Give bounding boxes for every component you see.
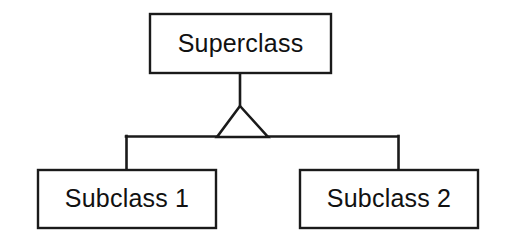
subclass-2-node[interactable]: Subclass 2 — [300, 170, 478, 228]
superclass-node[interactable]: Superclass — [150, 14, 331, 73]
uml-class-diagram: Superclass Subclass 1 Subclass 2 — [0, 0, 505, 244]
generalization-arrowhead-icon — [217, 106, 268, 137]
subclass-2-label: Subclass 2 — [327, 184, 451, 212]
superclass-label: Superclass — [178, 29, 304, 57]
uml-diagram-canvas: Superclass Subclass 1 Subclass 2 — [0, 0, 505, 244]
subclass-1-label: Subclass 1 — [65, 184, 189, 212]
subclass-1-node[interactable]: Subclass 1 — [38, 170, 216, 228]
